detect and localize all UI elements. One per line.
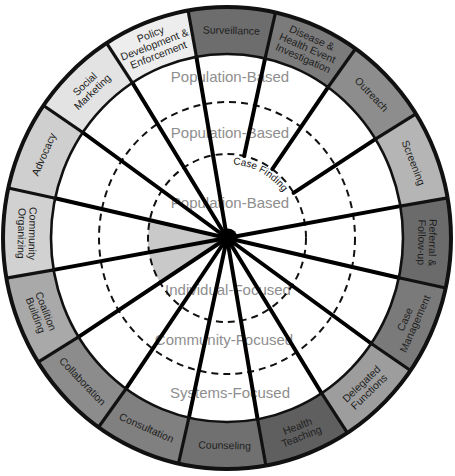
label-community-organizing: CommunityOrganizing	[15, 207, 39, 261]
center-hub-dot	[219, 229, 238, 248]
population-based-label-outer: Population-Based	[171, 68, 289, 85]
label-counseling: Counseling	[198, 438, 251, 451]
individual-focused-label: Individual-Focused	[165, 281, 291, 298]
community-focused-label: Community-Focused	[155, 331, 293, 348]
label-referral-follow-up: Referral &Follow-up	[415, 219, 439, 267]
population-based-label-middle: Population-Based	[171, 124, 289, 141]
case-finding-label: Case Finding	[233, 155, 290, 193]
public-health-intervention-wheel: Population-Based Population-Based Popula…	[0, 0, 455, 476]
spoke-case-finding	[294, 139, 376, 193]
systems-focused-label: Systems-Focused	[170, 384, 290, 401]
label-surveillance: Surveillance	[203, 23, 261, 36]
